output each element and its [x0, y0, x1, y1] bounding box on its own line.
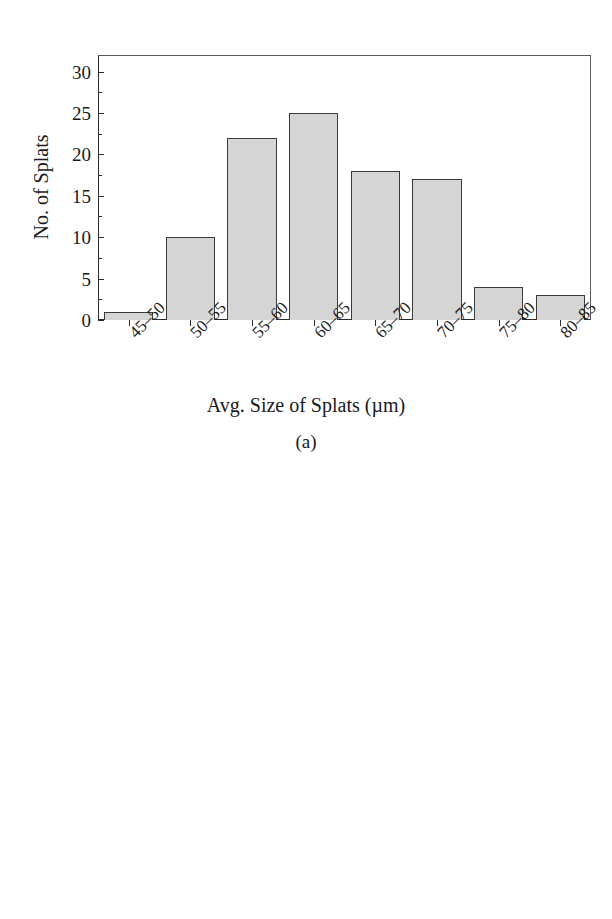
figure-caption-a: (a)	[0, 432, 612, 451]
y-axis-tick-label: 25	[72, 103, 91, 122]
x-axis-title-a: Avg. Size of Splats (µm)	[0, 395, 612, 415]
y-axis-tick	[98, 320, 104, 321]
bar-group-a	[98, 55, 591, 320]
bar	[227, 138, 276, 320]
y-axis-tick-label: 15	[72, 186, 91, 205]
y-axis-tick-label: 20	[72, 145, 91, 164]
plot-area-a: 051015202530 45–5050–5555–6060–6565–7070…	[98, 55, 591, 320]
y-axis-tick	[98, 196, 104, 197]
bar	[351, 171, 400, 320]
y-axis-minor-tick	[98, 258, 102, 259]
y-axis-tick	[98, 72, 104, 73]
bar	[289, 113, 338, 320]
figure-a: No. of Splats 051015202530 45–5050–5555–…	[0, 0, 612, 460]
y-axis-tick	[98, 154, 104, 155]
y-axis-minor-tick	[98, 216, 102, 217]
y-axis-tick	[98, 237, 104, 238]
y-axis-tick-label: 5	[82, 269, 92, 288]
y-axis-tick-label: 10	[72, 228, 91, 247]
figure-b: No. of Splats 051015202530 1–1.11.1–1.21…	[0, 460, 612, 919]
y-axis-title-a: No. of Splats	[30, 135, 50, 240]
y-axis-minor-tick	[98, 175, 102, 176]
y-axis-tick-label: 30	[72, 62, 91, 81]
bar	[412, 179, 461, 320]
y-axis-minor-tick	[98, 134, 102, 135]
y-axis-tick-label: 0	[82, 311, 92, 330]
y-axis-minor-tick	[98, 299, 102, 300]
y-axis-tick	[98, 113, 104, 114]
y-axis-tick	[98, 279, 104, 280]
y-axis-minor-tick	[98, 92, 102, 93]
